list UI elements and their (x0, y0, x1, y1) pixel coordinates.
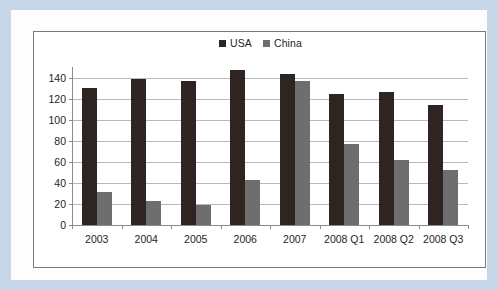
x-axis-ticks (72, 225, 468, 230)
bar-china-2005[interactable] (196, 205, 211, 225)
bar-usa-2003[interactable] (82, 88, 97, 225)
bar-china-2003[interactable] (97, 192, 112, 225)
square-marker-icon (219, 40, 226, 47)
x-tick-6 (369, 225, 370, 229)
x-tick-3 (221, 225, 222, 229)
bar-groups (72, 67, 468, 225)
bar-china-2008-q1[interactable] (344, 144, 359, 225)
y-tick-label-120: 120 (48, 93, 66, 105)
x-axis-label-2003: 2003 (72, 233, 122, 245)
bar-china-2008-q3[interactable] (443, 170, 458, 225)
bar-usa-2008-q1[interactable] (329, 94, 344, 225)
x-tick-8 (468, 225, 469, 229)
chart-legend: USAChina (34, 38, 487, 49)
bar-usa-2005[interactable] (181, 81, 196, 225)
x-axis-label-2005: 2005 (171, 233, 221, 245)
legend-item-usa[interactable]: USA (219, 38, 252, 49)
x-tick-2 (171, 225, 172, 229)
bar-usa-2007[interactable] (280, 74, 295, 225)
x-tick-1 (122, 225, 123, 229)
bar-group-2007 (270, 67, 320, 225)
scanned-page-frame: USAChina 020406080100120140 200320042005… (0, 0, 498, 290)
y-tick-label-40: 40 (54, 177, 66, 189)
bar-group-2008-q3 (419, 67, 469, 225)
legend-label: China (274, 38, 302, 49)
y-tick-label-0: 0 (60, 219, 66, 231)
bar-group-2003 (72, 67, 122, 225)
x-axis-label-2008-q1: 2008 Q1 (320, 233, 370, 245)
x-tick-0 (72, 225, 73, 229)
legend-label: USA (230, 38, 252, 49)
bar-usa-2008-q2[interactable] (379, 92, 394, 225)
bar-group-2004 (122, 67, 172, 225)
x-axis-label-2008-q2: 2008 Q2 (369, 233, 419, 245)
x-axis-labels: 200320042005200620072008 Q12008 Q22008 Q… (72, 233, 468, 245)
bar-group-2006 (221, 67, 271, 225)
square-marker-icon (263, 40, 270, 47)
bar-group-2005 (171, 67, 221, 225)
bar-usa-2006[interactable] (230, 70, 245, 225)
y-tick-label-140: 140 (48, 72, 66, 84)
bar-group-2008-q2 (369, 67, 419, 225)
x-axis-label-2007: 2007 (270, 233, 320, 245)
bar-group-2008-q1 (320, 67, 370, 225)
bar-china-2008-q2[interactable] (394, 160, 409, 225)
x-axis-label-2004: 2004 (122, 233, 172, 245)
page-mat: USAChina 020406080100120140 200320042005… (11, 10, 487, 280)
x-axis-label-2006: 2006 (221, 233, 271, 245)
bar-usa-2008-q3[interactable] (428, 105, 443, 225)
bar-china-2007[interactable] (295, 81, 310, 225)
x-tick-4 (270, 225, 271, 229)
chart-container: USAChina 020406080100120140 200320042005… (33, 31, 486, 268)
y-tick-label-80: 80 (54, 135, 66, 147)
y-tick-label-100: 100 (48, 114, 66, 126)
legend-item-china[interactable]: China (263, 38, 302, 49)
x-tick-5 (320, 225, 321, 229)
y-tick-label-20: 20 (54, 198, 66, 210)
bar-usa-2004[interactable] (131, 79, 146, 225)
plot-area: 020406080100120140 (72, 67, 468, 225)
y-tick-label-60: 60 (54, 156, 66, 168)
x-axis-label-2008-q3: 2008 Q3 (419, 233, 469, 245)
bar-china-2004[interactable] (146, 201, 161, 225)
bar-china-2006[interactable] (245, 180, 260, 225)
x-tick-7 (419, 225, 420, 229)
